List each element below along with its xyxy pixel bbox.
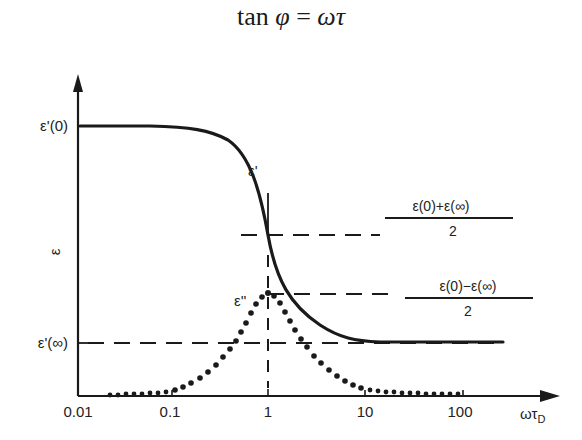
y-label-eps-inf: ε'(∞) xyxy=(38,334,68,351)
eps-double-prime-label: ε'' xyxy=(234,292,247,309)
x-tick-100: 100 xyxy=(447,403,472,420)
fraction-peak: ε(0)−ε(∞) 2 xyxy=(405,278,533,319)
x-tick-10: 10 xyxy=(357,403,374,420)
y-axis-arrow-icon xyxy=(73,74,83,92)
fraction-midpoint-numerator: ε(0)+ε(∞) xyxy=(412,198,469,214)
y-axis-label: ε xyxy=(46,248,63,255)
x-axis-arrow-icon xyxy=(540,390,560,402)
fraction-peak-numerator: ε(0)−ε(∞) xyxy=(439,278,496,294)
axes xyxy=(78,86,548,396)
y-label-eps-zero: ε'(0) xyxy=(40,117,68,134)
eps-prime-curve xyxy=(80,126,503,342)
y-ticks xyxy=(78,126,88,343)
fraction-midpoint: ε(0)+ε(∞) 2 xyxy=(385,198,513,239)
x-axis-label: ωτD xyxy=(520,405,545,425)
x-tick-0.1: 0.1 xyxy=(160,403,181,420)
debye-relaxation-chart: 0.01 0.1 1 10 100 ωτD ε'(0) ε'(∞) ε xyxy=(0,0,582,440)
x-tick-1: 1 xyxy=(264,403,272,420)
fraction-midpoint-denominator: 2 xyxy=(449,223,457,239)
x-tick-0.01: 0.01 xyxy=(63,403,92,420)
fraction-peak-denominator: 2 xyxy=(464,303,472,319)
eps-prime-label: ε' xyxy=(248,162,258,179)
dashed-guides xyxy=(88,235,500,388)
